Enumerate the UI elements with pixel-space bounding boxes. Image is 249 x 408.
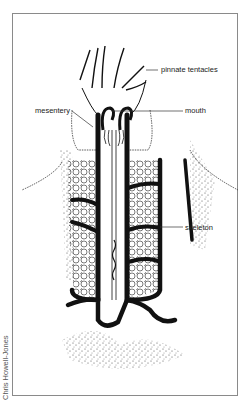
substrate: [60, 140, 215, 369]
polyp-illustration: [0, 0, 249, 408]
label-mesentery: mesentery: [35, 107, 70, 115]
label-skeleton: skeleton: [185, 224, 213, 232]
label-mouth: mouth: [185, 107, 206, 115]
tentacles: [80, 46, 146, 90]
label-pinnate-tentacles: pinnate tentacles: [161, 66, 218, 74]
credit-text: Chris Howell-Jones: [1, 335, 10, 400]
